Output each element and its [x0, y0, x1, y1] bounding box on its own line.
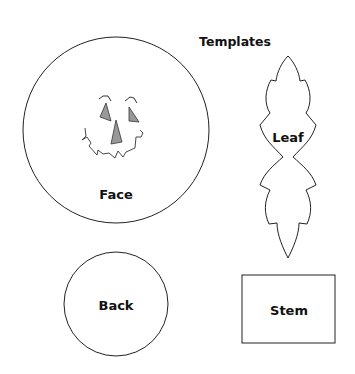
right-eyebrow [125, 97, 137, 103]
stem-label: Stem [270, 303, 308, 318]
left-eyebrow [99, 96, 111, 101]
title: Templates [199, 34, 271, 49]
nose [111, 120, 122, 144]
face-label: Face [99, 187, 132, 202]
leaf-label: Leaf [272, 130, 304, 145]
leaf-shape [260, 56, 316, 258]
back-label: Back [98, 298, 133, 313]
right-eye [129, 107, 139, 122]
left-eye [100, 103, 111, 121]
templates-diagram [0, 0, 355, 374]
